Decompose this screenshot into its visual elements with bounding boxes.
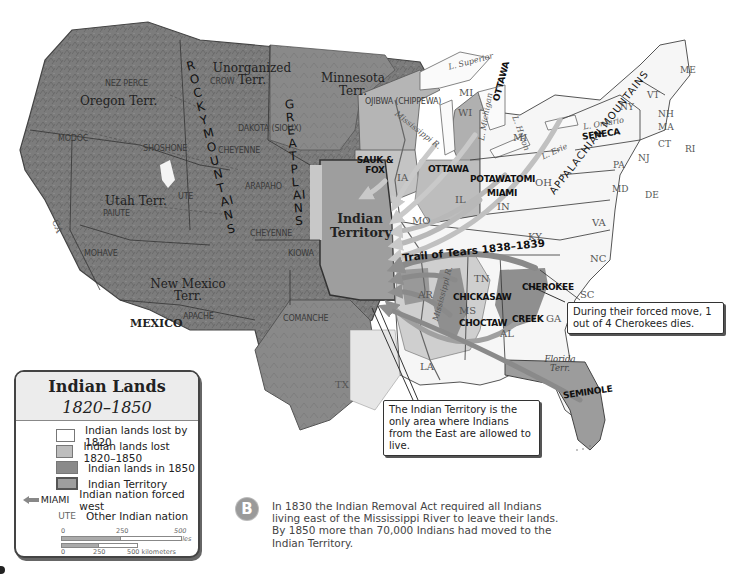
legend-years: 1820–1850	[16, 398, 198, 417]
legend-label: Other Indian nation	[86, 510, 188, 522]
label-mohave: MOHAVE	[84, 250, 118, 258]
swatch-dark-gray	[56, 461, 78, 474]
scale-km-500: 500 kilometers	[127, 548, 176, 556]
legend-item-lost-1820-1850: Indian lands lost 1820–1850	[16, 444, 198, 459]
label-oregon-terr: Oregon Terr.	[80, 95, 157, 107]
label-new-mexico-terr: New Mexico Terr.	[148, 278, 228, 302]
legend-item-forced-west: MIAMI Indian nation forced west	[16, 492, 198, 507]
scale-miles-bar-2	[120, 536, 182, 541]
label-nez-perce: NEZ PERCE	[105, 80, 148, 88]
label-state-ri: RI	[685, 145, 695, 154]
label-florida-terr: Florida Terr.	[540, 355, 580, 373]
label-potawatomi: POTAWATOMI	[470, 175, 535, 184]
scale-km-250: 250	[93, 548, 105, 556]
label-state-ms: MS	[459, 306, 476, 316]
label-state-al: AL	[500, 329, 514, 339]
label-state-pa: PA	[613, 161, 625, 170]
label-cheyenne-north: CHEYENNE	[218, 147, 260, 155]
legend-title: Indian Lands	[16, 372, 198, 396]
label-state-nh: NH	[658, 110, 674, 119]
label-minnesota-terr: Minnesota Terr.	[318, 72, 388, 98]
label-mexico: MEXICO	[130, 318, 183, 329]
label-miami: MIAMI	[487, 189, 517, 198]
scale-miles-bar-1	[61, 536, 121, 541]
label-arapaho: ARAPAHO	[245, 183, 282, 191]
label-state-wi: WI	[458, 108, 472, 118]
label-state-nc: NC	[590, 254, 606, 264]
map-legend: Indian Lands 1820–1850 Indian lands lost…	[14, 370, 200, 558]
label-state-ia: IA	[397, 173, 408, 183]
label-chickasaw: CHICKASAW	[453, 293, 511, 302]
label-state-tx: TX	[335, 380, 349, 390]
plains-light-strip	[310, 165, 322, 240]
label-apache: APACHE	[183, 313, 214, 321]
label-state-sc: SC	[580, 290, 595, 300]
label-state-me: ME	[680, 66, 696, 75]
label-state-oh: OH	[535, 178, 552, 188]
label-state-va: VA	[592, 218, 606, 228]
label-state-ma: MA	[658, 123, 674, 132]
label-state-mo: MO	[412, 216, 430, 226]
legend-item-lands-1850: Indian lands in 1850	[16, 460, 195, 475]
label-kiowa: KIOWA	[288, 250, 314, 258]
callout-indian-territory: The Indian Territory is the only area wh…	[383, 400, 540, 456]
lake-michigan	[440, 100, 455, 155]
label-comanche: COMANCHE	[283, 315, 328, 323]
label-sauk-fox: SAUK & FOX	[356, 155, 394, 175]
label-ute: UTE	[178, 193, 193, 201]
scale-miles-250: 250	[116, 527, 128, 535]
label-dakota-sioux: DAKOTA (SIOUX)	[238, 125, 301, 133]
label-shoshone: SHOSHONE	[143, 145, 187, 153]
label-state-ct: CT	[658, 140, 671, 149]
legend-header: Indian Lands 1820–1850	[16, 372, 198, 421]
swatch-outlined-gray	[56, 477, 78, 490]
label-state-mi-upper: MI	[459, 88, 473, 98]
label-modoc: MODOC	[58, 135, 88, 143]
label-state-tn: TN	[474, 274, 489, 284]
scale-miles-0: 0	[61, 527, 65, 535]
label-crow: CROW	[210, 78, 235, 86]
label-indian-territory: Indian Territory	[330, 212, 390, 240]
label-ojibwa: OJIBWA (CHIPPEWA)	[365, 98, 441, 106]
callout-cherokee-deaths: During their forced move, 1 out of 4 Che…	[567, 302, 724, 334]
label-ottawa-wi: OTTAWA	[428, 165, 469, 174]
label-state-la: LA	[420, 362, 434, 372]
scale-km-0: 0	[61, 548, 65, 556]
swatch-white	[56, 429, 75, 442]
label-state-il: IL	[455, 195, 466, 205]
texas-east-light	[350, 330, 400, 410]
note-badge-b: B	[236, 498, 258, 520]
label-paiute: PAIUTE	[103, 210, 130, 218]
legend-forced-sample: MIAMI	[41, 494, 70, 505]
label-state-nj: NJ	[638, 154, 649, 163]
legend-item-other-nation: UTE Other Indian nation	[16, 508, 188, 523]
label-cheyenne-south: CHEYENNE	[250, 230, 292, 238]
legend-label: Indian lands in 1850	[88, 462, 195, 474]
label-state-de: DE	[645, 191, 659, 200]
label-state-vt: VT	[647, 91, 660, 100]
note-text: In 1830 the Indian Removal Act required …	[272, 500, 562, 549]
label-creek: CREEK	[512, 315, 543, 324]
label-state-ar: AR	[418, 290, 433, 300]
arrow-shaft-icon	[29, 498, 39, 502]
label-state-ny: NY	[620, 103, 634, 112]
label-state-in: IN	[497, 202, 510, 212]
legend-other-sample: UTE	[16, 511, 86, 521]
swatch-light-gray	[56, 445, 73, 458]
label-choctaw: CHOCTAW	[459, 319, 507, 328]
label-state-md: MD	[612, 185, 628, 194]
label-cherokee: CHEROKEE	[522, 283, 574, 292]
label-state-ga: GA	[546, 314, 561, 324]
label-utah-terr: Utah Terr.	[105, 195, 167, 207]
